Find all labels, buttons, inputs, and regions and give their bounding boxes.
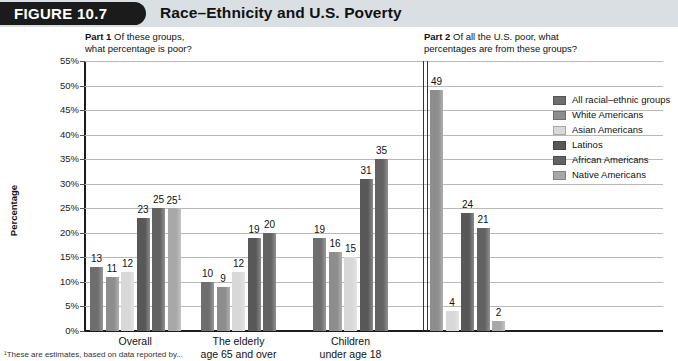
legend-swatch <box>553 171 566 180</box>
figure-title-bar: FIGURE 10.7 Race–Ethnicity and U.S. Pove… <box>0 0 678 27</box>
y-axis-tick-label: 15% <box>45 251 79 262</box>
y-axis-tick-label: 40% <box>45 129 79 140</box>
y-axis-tick-mark <box>80 233 85 234</box>
y-axis-tick-mark <box>80 135 85 136</box>
y-axis-tick-label: 30% <box>45 178 79 189</box>
legend-label: All racial–ethnic groups <box>572 94 675 106</box>
gridline <box>85 86 663 87</box>
figure-number-tab: FIGURE 10.7 <box>0 2 146 25</box>
bar: 4 <box>446 311 459 331</box>
bar-value-footnote-marker: 1 <box>178 194 182 201</box>
x-axis-category-line: Children <box>331 335 370 347</box>
bar: 2 <box>492 321 505 331</box>
bar-value-label: 16 <box>329 238 340 249</box>
figure-footnote: ¹These are estimates, based on data repo… <box>4 350 183 359</box>
bar: 20 <box>263 233 276 331</box>
legend-item[interactable]: All racial–ethnic groups <box>553 94 675 107</box>
bar-value-label: 23 <box>137 204 148 215</box>
bar: 21 <box>477 228 490 331</box>
bar: 35 <box>375 159 388 331</box>
bar: 11 <box>106 277 119 331</box>
bar: 25 <box>152 208 165 331</box>
y-axis-tick-mark <box>80 184 85 185</box>
y-axis-tick-label: 50% <box>45 80 79 91</box>
y-axis-title: Percentage <box>8 176 19 246</box>
bar-value-label: 9 <box>220 273 226 284</box>
bar: 251 <box>168 208 181 331</box>
bar: 10 <box>201 282 214 331</box>
legend-item[interactable]: Latinos <box>553 139 675 152</box>
bar-value-label: 12 <box>233 258 244 269</box>
y-axis-tick-label: 35% <box>45 153 79 164</box>
y-axis-tick-mark <box>80 331 85 332</box>
part1-question-line2: what percentage is poor? <box>85 43 192 54</box>
x-axis-category-line: under age 18 <box>320 348 382 360</box>
legend-label: Latinos <box>572 139 675 151</box>
part-divider <box>423 61 424 331</box>
bar: 9 <box>217 287 230 331</box>
bar-value-label: 35 <box>376 145 387 156</box>
y-axis-tick-label: 5% <box>45 300 79 311</box>
bar: 31 <box>360 179 373 331</box>
legend-swatch <box>553 111 566 120</box>
y-axis-tick-label: 25% <box>45 202 79 213</box>
legend-item[interactable]: White Americans <box>553 109 675 122</box>
y-axis-tick-mark <box>80 110 85 111</box>
bar-value-label: 21 <box>477 214 488 225</box>
bar-value-label: 13 <box>91 253 102 264</box>
bar-value-label: 2 <box>496 307 502 318</box>
bar-value-label: 49 <box>431 76 442 87</box>
bar-value-label: 4 <box>449 297 455 308</box>
y-axis-tick-mark <box>80 86 85 87</box>
legend-label: White Americans <box>572 109 675 121</box>
legend-label: African Americans <box>572 154 675 166</box>
y-axis-tick-mark <box>80 306 85 307</box>
bar-value-label: 25 <box>153 194 164 205</box>
x-axis-category-label: Childrenunder age 18 <box>271 335 431 361</box>
bar: 49 <box>430 90 443 331</box>
figure-title: Race–Ethnicity and U.S. Poverty <box>160 4 402 22</box>
y-axis-tick-label: 10% <box>45 276 79 287</box>
legend-label: Native Americans <box>572 169 675 181</box>
legend-swatch <box>553 141 566 150</box>
legend-item[interactable]: Native Americans <box>553 169 675 182</box>
chart-legend: All racial–ethnic groupsWhite AmericansA… <box>553 94 675 184</box>
legend-item[interactable]: Asian Americans <box>553 124 675 137</box>
bar-value-label: 20 <box>264 219 275 230</box>
part1-label: Part 1 <box>85 31 111 42</box>
part-divider <box>427 61 428 331</box>
part2-question-line2: percentages are from these groups? <box>424 43 577 54</box>
legend-label: Asian Americans <box>572 124 675 136</box>
bar: 12 <box>232 272 245 331</box>
y-axis-tick-label: 45% <box>45 104 79 115</box>
bar-value-label: 19 <box>314 224 325 235</box>
part2-label: Part 2 <box>424 31 450 42</box>
bar: 16 <box>329 252 342 331</box>
y-axis-tick-mark <box>80 282 85 283</box>
part1-heading: Part 1 Of these groups, what percentage … <box>85 31 192 54</box>
legend-item[interactable]: African Americans <box>553 154 675 167</box>
bar-value-label: 251 <box>166 194 181 206</box>
part2-heading: Part 2 Of all the U.S. poor, what percen… <box>424 31 577 54</box>
bar: 24 <box>461 213 474 331</box>
bar-value-label: 24 <box>462 199 473 210</box>
figure-number-label: FIGURE 10.7 <box>14 5 107 22</box>
bar: 13 <box>90 267 103 331</box>
gridline <box>85 61 663 62</box>
x-axis-category-line: The elderly <box>213 335 265 347</box>
bar: 19 <box>248 238 261 331</box>
y-axis-tick-label: 20% <box>45 227 79 238</box>
bar-value-label: 19 <box>248 224 259 235</box>
x-axis-category-line: Overall <box>119 335 152 347</box>
bar: 12 <box>121 272 134 331</box>
bar: 15 <box>344 257 357 331</box>
bar: 23 <box>137 218 150 331</box>
y-axis-tick-mark <box>80 61 85 62</box>
chart-canvas: Part 1 Of these groups, what percentage … <box>0 27 678 357</box>
y-axis-tick-label: 55% <box>45 55 79 66</box>
bar-value-label: 15 <box>345 243 356 254</box>
part1-question-line1: Of these groups, <box>114 31 184 42</box>
bar-value-label: 10 <box>202 268 213 279</box>
bar-value-label: 12 <box>122 258 133 269</box>
legend-swatch <box>553 156 566 165</box>
